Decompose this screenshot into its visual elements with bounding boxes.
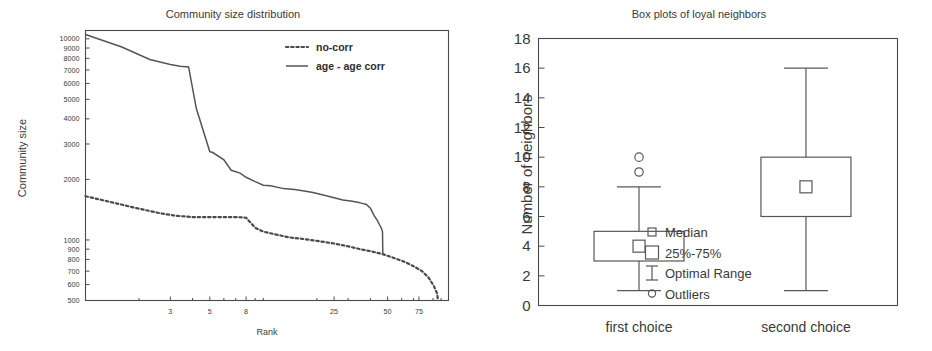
x-tick-label: 3 [168,307,172,316]
x-tick-label: 25 [330,307,338,316]
box-plot-second-choice [761,68,851,291]
legend-label: Median [665,225,708,240]
y-tick-label: 1000 [64,236,80,245]
y-tick-label: 8000 [64,54,80,63]
chart-panel-box-plots: Box plots of loyal neighbors Number of n… [466,0,932,351]
legend-marker-median [648,228,656,236]
y-axis-ticks-group: 024681012141618 [514,30,545,314]
y-tick-label: 3000 [64,140,80,149]
outlier-point [635,168,643,176]
legend-label: 25%-75% [665,246,722,261]
y-tick-label: 900 [68,245,80,254]
legend-label: no-corr [316,41,353,53]
plot-area-box-plots: 024681012141618 first choicesecond choic… [466,0,932,351]
y-tick-label: 6000 [64,79,80,88]
figure-canvas: Community size distribution Community si… [0,0,932,351]
y-tick-label: 800 [68,255,80,264]
y-tick-label: 4 [522,237,530,254]
iqr-box [761,157,851,216]
median-marker [800,181,812,193]
legend-label: Outliers [665,287,710,302]
category-label: second choice [761,319,851,335]
y-tick-label: 6 [522,208,530,225]
series-line-no-corr [86,196,438,300]
median-marker [633,240,645,252]
y-tick-label: 500 [68,296,80,305]
y-tick-label: 4000 [64,114,80,123]
y-tick-label: 0 [522,297,530,314]
outlier-point [635,153,643,161]
chart-panel-community-size: Community size distribution Community si… [0,0,466,351]
y-tick-label: 700 [68,267,80,276]
y-tick-label: 10000 [60,34,80,43]
y-tick-label: 2 [522,267,530,284]
box-plot-group [594,68,851,291]
x-tick-label: 75 [415,307,423,316]
category-labels-group: first choicesecond choice [606,319,851,335]
y-tick-label: 18 [514,30,531,47]
y-tick-label: 5000 [64,95,80,104]
y-tick-label: 10 [514,148,531,165]
y-tick-label: 8 [522,178,530,195]
y-tick-label: 14 [514,89,531,106]
x-tick-label: 8 [244,307,248,316]
y-tick-label: 12 [514,119,531,136]
data-series-group [86,35,438,301]
y-tick-label: 600 [68,280,80,289]
legend-community-size: no-corrage - age corr [286,41,385,72]
plot-area-community-size: 5006007008009001000200030004000500060007… [0,0,466,351]
y-tick-label: 7000 [64,66,80,75]
plot-frame [86,31,449,301]
y-tick-label: 2000 [64,175,80,184]
y-tick-label: 9000 [64,44,80,53]
legend-label: age - age corr [316,60,385,72]
x-axis-ticks-group: 358255075 [139,297,441,316]
category-label: first choice [606,319,673,335]
x-tick-label: 50 [384,307,392,316]
legend-label: Optimal Range [665,266,752,281]
legend-marker-iqr [646,246,659,259]
x-tick-label: 5 [208,307,212,316]
legend-box-plots: Median25%-75%Optimal RangeOutliers [646,225,752,302]
y-tick-label: 16 [514,59,531,76]
